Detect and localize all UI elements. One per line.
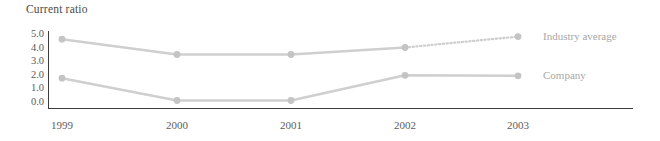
data-point-industry-1999 <box>59 36 66 43</box>
data-point-industry-2003 <box>515 33 522 40</box>
data-point-industry-2002 <box>402 44 409 51</box>
legend-label-company: Company <box>543 69 586 81</box>
chart-figure: Current ratio 5.0 4.0 3.0 2.0 1.0 0.0 19… <box>0 0 660 141</box>
y-tick-label-3: 3.0 <box>31 55 44 66</box>
legend-label-industry-average: Industry average <box>543 30 617 42</box>
data-point-company-2000 <box>174 97 181 104</box>
series-industry-average-dotted-segment <box>405 37 518 48</box>
line-chart-plot: 5.0 4.0 3.0 2.0 1.0 0.0 1999 2000 2001 2… <box>0 0 660 141</box>
y-tick-label-4: 4.0 <box>31 42 44 53</box>
series-company-line <box>62 75 518 100</box>
series-industry-average <box>59 33 522 58</box>
x-tick-label-2000: 2000 <box>166 119 189 131</box>
y-tick-label-0: 0.0 <box>31 96 44 107</box>
data-point-company-2002 <box>402 72 409 79</box>
data-point-company-2003 <box>515 72 522 79</box>
data-point-industry-2001 <box>288 51 295 58</box>
x-tick-label-2003: 2003 <box>507 119 530 131</box>
x-tick-label-1999: 1999 <box>51 119 74 131</box>
series-company <box>59 72 522 104</box>
y-tick-label-5: 5.0 <box>31 28 44 39</box>
data-point-company-1999 <box>59 75 66 82</box>
data-point-industry-2000 <box>174 51 181 58</box>
data-point-company-2001 <box>288 97 295 104</box>
x-tick-label-2001: 2001 <box>280 119 302 131</box>
series-industry-average-solid-segment <box>62 39 405 54</box>
y-tick-label-1: 1.0 <box>31 82 44 93</box>
x-tick-label-2002: 2002 <box>394 119 416 131</box>
y-tick-label-2: 2.0 <box>31 69 44 80</box>
